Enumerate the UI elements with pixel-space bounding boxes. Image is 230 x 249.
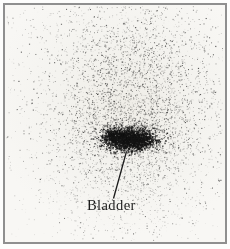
leader-line <box>114 152 127 199</box>
figure-page: Bladder <box>0 0 230 249</box>
bladder-label: Bladder <box>87 198 136 213</box>
